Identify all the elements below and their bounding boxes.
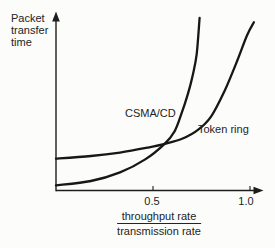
csma-cd-label: CSMA/CD: [125, 107, 176, 119]
x-axis-label: throughput rate transmission rate: [117, 210, 201, 237]
x-tick-label-1-0: 1.0: [238, 195, 253, 207]
x-axis-arrowhead: [254, 187, 264, 195]
x-tick-label-0-5: 0.5: [144, 195, 159, 207]
token-ring-curve: [56, 22, 254, 158]
y-axis-arrowhead: [52, 12, 60, 22]
x-axis-label-numerator: throughput rate: [117, 210, 201, 224]
token-ring-label: Token ring: [198, 123, 249, 135]
packet-transfer-time-figure: Packet transfer time CSMA/CD Token ring …: [0, 0, 275, 248]
x-axis-label-denominator: transmission rate: [117, 224, 201, 237]
csma-cd-curve: [56, 18, 200, 185]
y-axis-label: Packet transfer time: [11, 12, 48, 48]
